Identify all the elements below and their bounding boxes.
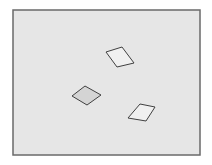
diagram-canvas [0, 0, 212, 165]
frame-border [13, 10, 200, 155]
